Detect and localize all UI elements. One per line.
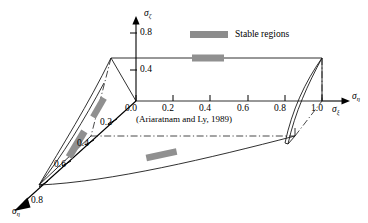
htick-label-0_4: 0.4 (199, 104, 211, 114)
dtick-label-0_6: 0.6 (54, 160, 66, 170)
htick-label-0_8: 0.8 (274, 104, 286, 114)
vtick-label-0_8: 0.8 (140, 28, 152, 38)
citation-label: (Ariaratnam and Ly, 1989) (136, 114, 232, 124)
lens-bottom-close (285, 143, 288, 144)
lens-outer-edge (285, 58, 322, 143)
figure-canvas: σζ 0.8 0.4 0.0 0.2 0.4 0.6 0.8 1.0 σξ ση… (0, 0, 368, 223)
legend-label: Stable regions (235, 29, 289, 39)
dtick-label-0_4: 0.4 (77, 139, 89, 149)
dtick-label-0_2: 0.2 (100, 118, 112, 128)
vtick-label-0_4: 0.4 (140, 65, 152, 75)
horizontal-axis-subscript: η (357, 95, 360, 102)
horizontal-axis-arrowhead (342, 97, 351, 104)
legend-swatch (190, 31, 228, 38)
stable-band-lower-curve (146, 148, 178, 161)
vertical-axis-subscript: ζ (149, 12, 152, 19)
htick-label-0_2: 0.2 (162, 104, 174, 114)
dtick-label-0_8: 0.8 (31, 196, 43, 206)
depth-axis-subscript: η (17, 210, 20, 217)
stable-band-top-face (192, 55, 224, 62)
htick-label-0_6: 0.6 (237, 104, 249, 114)
box-left-top-diagonal (111, 58, 136, 101)
htick-label-0_0: 0.0 (125, 104, 137, 114)
horizontal-inner-axis-label: σξ (332, 104, 339, 115)
depth-axis-label: ση (12, 206, 20, 217)
vertical-axis-arrowhead (132, 16, 139, 25)
htick-label-1_0: 1.0 (311, 104, 323, 114)
vertical-axis-label: σζ (144, 8, 151, 19)
horizontal-axis-label: ση (352, 91, 360, 102)
stable-band-left-inner (90, 97, 107, 119)
envelope-inner-left-curve (39, 83, 104, 185)
horizontal-inner-subscript: ξ (337, 108, 340, 115)
